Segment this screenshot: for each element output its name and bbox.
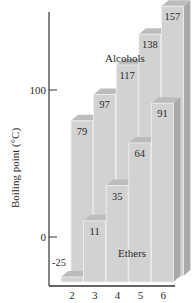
alcohols-annotation: Alcohols xyxy=(105,52,145,64)
bar-value-label: 117 xyxy=(120,70,135,81)
x-tick-label-6: 6 xyxy=(160,289,166,301)
x-tick-label-4: 4 xyxy=(115,289,121,301)
bar-value-label: 138 xyxy=(142,39,158,50)
ethers-annotation: Ethers xyxy=(118,247,146,259)
bar-value-label: 97 xyxy=(99,99,110,110)
bar-side-face xyxy=(173,97,180,282)
bar-front-face xyxy=(151,103,173,282)
bar-value-label: 64 xyxy=(135,148,146,159)
ether-bar-6: 91 xyxy=(151,97,180,282)
bar-value-label: 79 xyxy=(77,126,88,137)
bar-side-face xyxy=(183,0,190,276)
x-tick-label-3: 3 xyxy=(92,289,98,301)
x-tick-labels: 23456 xyxy=(69,289,166,301)
x-tick-label-2: 2 xyxy=(69,289,75,301)
bar-value-label: 35 xyxy=(112,191,123,202)
bar-front-face xyxy=(61,277,83,282)
boiling-point-chart: 7997117138157-2511356491 100 0 Boiling p… xyxy=(0,0,194,303)
bar-value-label: -25 xyxy=(52,257,66,268)
y-tick-label-0: 0 xyxy=(41,231,47,243)
bar-value-label: 11 xyxy=(90,226,100,237)
y-axis-label: Boiling point (°C) xyxy=(9,128,22,209)
y-tick-label-100: 100 xyxy=(30,84,47,96)
x-tick-label-5: 5 xyxy=(138,289,144,301)
bars-layer: 7997117138157-2511356491 xyxy=(52,0,190,282)
bar-value-label: 91 xyxy=(157,108,168,119)
bar-front-face xyxy=(129,143,151,282)
bar-value-label: 157 xyxy=(165,11,181,22)
